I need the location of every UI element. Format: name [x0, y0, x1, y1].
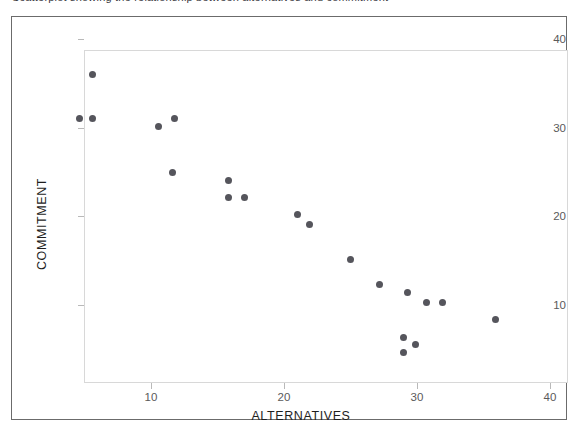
x-tick-label: 40 — [530, 391, 570, 403]
x-tick-mark — [417, 383, 418, 389]
figure-container: COMMITMENT ALTERNATIVES 1020304010203040 — [11, 16, 567, 420]
figure-caption-text: Scatterplot showing the relationship bet… — [12, 0, 388, 3]
x-tick-label: 30 — [397, 391, 437, 403]
scatter-point — [439, 299, 446, 306]
y-tick-label: 30 — [522, 122, 566, 134]
figure-caption-strip: Scatterplot showing the relationship bet… — [0, 0, 578, 9]
x-tick-label: 20 — [264, 391, 304, 403]
y-tick-mark — [78, 305, 84, 306]
scatter-point — [294, 211, 301, 218]
y-tick-mark — [78, 216, 84, 217]
scatter-point — [347, 256, 354, 263]
scatter-point — [241, 194, 248, 201]
scatter-point — [76, 115, 83, 122]
x-tick-mark — [550, 383, 551, 389]
scatter-point — [400, 334, 407, 341]
y-tick-mark — [78, 128, 84, 129]
scatter-point — [400, 349, 407, 356]
y-axis-title: COMMITMENT — [35, 134, 49, 314]
y-tick-label: 10 — [522, 299, 566, 311]
x-tick-mark — [284, 383, 285, 389]
x-tick-label: 10 — [131, 391, 171, 403]
scatter-point — [412, 341, 419, 348]
y-tick-label: 20 — [522, 210, 566, 222]
y-tick-label: 40 — [522, 33, 566, 45]
x-axis-title: ALTERNATIVES — [12, 409, 578, 423]
x-tick-mark — [151, 383, 152, 389]
scatter-point — [89, 71, 96, 78]
scatter-point — [169, 169, 176, 176]
y-tick-mark — [78, 39, 84, 40]
scatter-point — [306, 221, 313, 228]
scatter-point — [423, 299, 430, 306]
scatter-point — [225, 194, 232, 201]
scatter-point — [492, 316, 499, 323]
scatter-point — [225, 177, 232, 184]
plot-area — [84, 50, 568, 383]
